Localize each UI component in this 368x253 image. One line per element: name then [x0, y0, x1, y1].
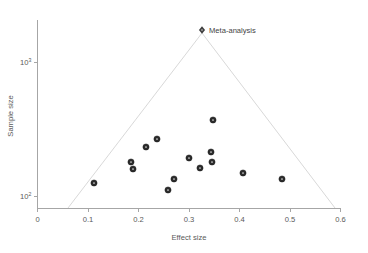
- data-point: [154, 136, 160, 142]
- funnel-boundary-lines: [68, 33, 335, 208]
- data-point: [171, 176, 177, 182]
- x-tick-label-4: 0.4: [234, 215, 245, 224]
- scatter-points-group: [91, 117, 285, 193]
- data-point: [128, 159, 134, 165]
- data-point: [130, 166, 136, 172]
- data-point: [143, 144, 149, 150]
- y-axis-title: Sample size: [6, 95, 15, 136]
- data-point: [210, 117, 216, 123]
- data-point: [279, 176, 285, 182]
- x-tick-label-1: 0.1: [83, 215, 94, 224]
- y-tick-label-1000: 103: [20, 57, 31, 67]
- y-tick-label-100: 102: [20, 191, 31, 201]
- x-tick-label-3: 0.3: [184, 215, 195, 224]
- data-point: [165, 187, 171, 193]
- diamond-icon-core: [201, 29, 203, 31]
- funnel-plot-figure: 0 0.1 0.2 0.3 0.4 0.5 0.6 103 102 Effect…: [0, 0, 368, 253]
- y-tick-label-1000-base: 10: [20, 58, 28, 67]
- data-point: [208, 149, 214, 155]
- x-axis-ticks: [38, 209, 341, 213]
- meta-analysis-label: Meta-analysis: [209, 26, 256, 35]
- funnel-plot-svg: 0 0.1 0.2 0.3 0.4 0.5 0.6 103 102 Effect…: [0, 0, 368, 253]
- funnel-left-edge: [68, 33, 202, 208]
- x-tick-label-2: 0.2: [133, 215, 144, 224]
- x-tick-label-6: 0.6: [335, 215, 346, 224]
- data-point: [186, 155, 192, 161]
- data-point: [209, 159, 215, 165]
- y-tick-label-100-base: 10: [20, 192, 28, 201]
- x-axis-tick-labels: 0 0.1 0.2 0.3 0.4 0.5 0.6: [35, 215, 345, 224]
- y-axis-ticks: [34, 62, 38, 196]
- y-axis-tick-labels: 103 102: [20, 57, 31, 201]
- y-tick-label-100-exponent: 2: [28, 191, 31, 197]
- axes: [38, 20, 342, 209]
- data-point: [240, 170, 246, 176]
- meta-analysis-marker-group: Meta-analysis: [199, 26, 256, 35]
- data-point: [197, 165, 203, 171]
- data-point: [91, 180, 97, 186]
- x-tick-label-5: 0.5: [285, 215, 296, 224]
- funnel-right-edge: [202, 33, 335, 208]
- x-axis-title: Effect size: [172, 233, 207, 242]
- x-tick-label-0: 0: [35, 215, 39, 224]
- y-tick-label-1000-exponent: 3: [28, 57, 31, 63]
